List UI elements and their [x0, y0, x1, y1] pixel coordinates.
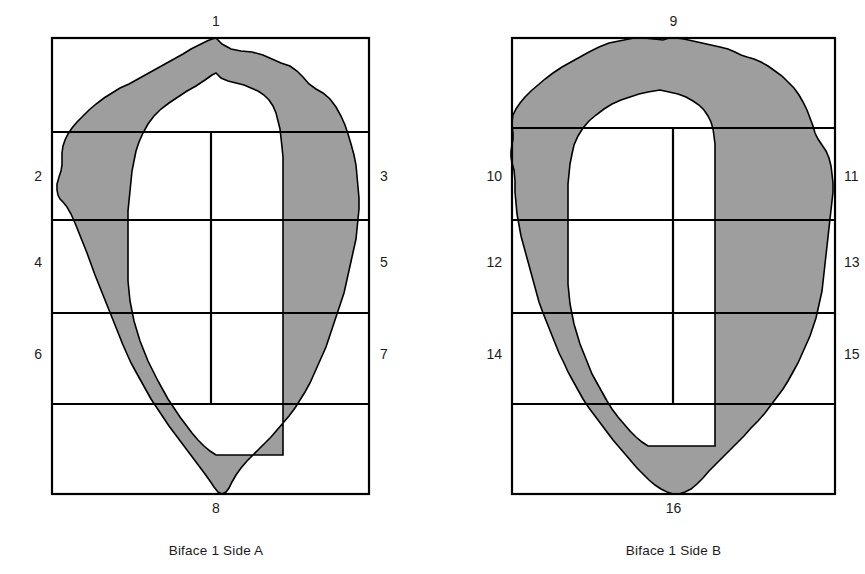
segment-label-right-3: 15 [844, 347, 865, 361]
figure-biface-side-a: 1 2 4 6 3 5 7 8 Biface 1 Side A [0, 0, 432, 574]
biface-side-a-drawing [0, 0, 432, 574]
figure-caption-side-a: Biface 1 Side A [0, 543, 432, 558]
segment-label-left-3: 14 [450, 347, 502, 361]
segment-label-bottom: 16 [512, 501, 835, 515]
segment-label-left-1: 10 [450, 169, 502, 183]
segment-label-left-1: 2 [0, 169, 42, 183]
segment-label-top: 9 [512, 14, 835, 28]
segment-label-left-2: 4 [0, 255, 42, 269]
figure-caption-side-b: Biface 1 Side B [512, 543, 835, 558]
segment-label-left-3: 6 [0, 347, 42, 361]
segment-label-right-1: 3 [380, 169, 430, 183]
figure-biface-side-b: 9 10 12 14 11 13 15 16 Biface 1 Side B [432, 0, 865, 574]
figure-page: 1 2 4 6 3 5 7 8 Biface 1 Side A 9 10 12 … [0, 0, 865, 574]
segment-label-right-2: 13 [844, 255, 865, 269]
biface-a-cortex-band [57, 38, 359, 494]
segment-label-top: 1 [0, 14, 432, 28]
segment-label-left-2: 12 [450, 255, 502, 269]
segment-label-right-2: 5 [380, 255, 430, 269]
biface-side-b-drawing [432, 0, 865, 574]
segment-label-right-1: 11 [844, 169, 865, 183]
segment-label-bottom: 8 [0, 501, 432, 515]
segment-label-right-3: 7 [380, 347, 430, 361]
